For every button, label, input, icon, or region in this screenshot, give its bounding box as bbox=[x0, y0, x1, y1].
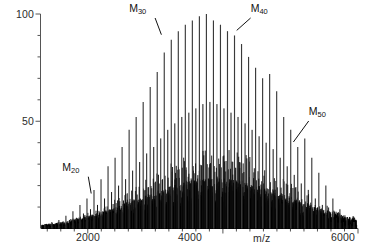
peak-label-subscript: 30 bbox=[138, 7, 146, 16]
y-axis-ticks bbox=[36, 14, 41, 207]
x-tick-label-2000: 2000 bbox=[76, 231, 100, 243]
peak-label-m30: M30 bbox=[129, 2, 146, 14]
peak-label-subscript: 40 bbox=[259, 7, 267, 16]
mass-spectrum-figure: 100 50 2000 4000 6000 m/z M20M30M40M50 bbox=[0, 0, 377, 249]
x-axis-title: m/z bbox=[253, 232, 271, 244]
peak-label-base: M bbox=[62, 161, 71, 173]
leader-line-M30 bbox=[155, 18, 161, 35]
x-tick-label-4000: 4000 bbox=[178, 231, 202, 243]
peak-label-m50: M50 bbox=[309, 105, 326, 117]
peak-label-m20: M20 bbox=[62, 161, 79, 173]
x-tick-label-6000: 6000 bbox=[331, 231, 355, 243]
peak-label-base: M bbox=[129, 2, 138, 14]
y-tick-label-100: 100 bbox=[6, 8, 34, 20]
peak-label-m40: M40 bbox=[251, 2, 268, 14]
leader-line-M20 bbox=[88, 177, 91, 194]
annotation-leader-lines bbox=[88, 18, 308, 194]
y-tick-label-50: 50 bbox=[6, 115, 34, 127]
leader-line-M50 bbox=[293, 121, 308, 142]
spectrum-plot-canvas bbox=[0, 0, 377, 249]
spectrum-traces bbox=[42, 14, 357, 229]
peak-label-subscript: 50 bbox=[317, 110, 325, 119]
leader-line-M40 bbox=[237, 18, 251, 30]
peak-label-subscript: 20 bbox=[71, 166, 79, 175]
